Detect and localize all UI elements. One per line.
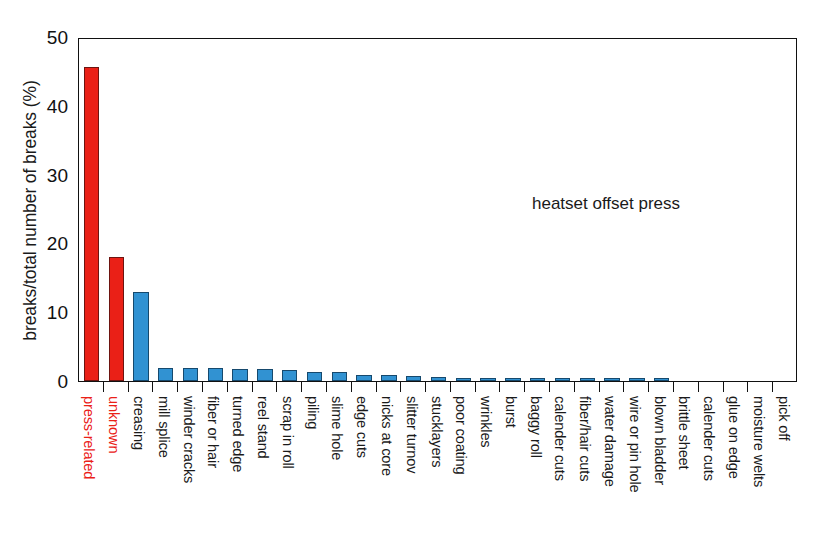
x-tick-mark xyxy=(103,382,104,392)
x-tick-label: moisture welts xyxy=(751,396,766,487)
bar xyxy=(505,378,520,381)
x-tick-mark xyxy=(623,382,624,392)
x-tick-mark xyxy=(450,382,451,392)
x-tick-mark xyxy=(524,382,525,392)
x-tick-mark xyxy=(673,382,674,392)
x-tick-label: fiber or hair xyxy=(206,396,221,468)
x-tick-label: press-related xyxy=(82,396,97,479)
x-tick-mark xyxy=(475,382,476,392)
x-tick-label: reel stand xyxy=(255,396,270,459)
x-tick-mark xyxy=(351,382,352,392)
bar xyxy=(84,67,99,381)
y-tick-label: 40 xyxy=(22,97,68,116)
x-tick-mark xyxy=(747,382,748,392)
bar xyxy=(332,372,347,381)
bar-chart-figure: breaks/total number of breaks (%) 010203… xyxy=(0,0,819,560)
bar xyxy=(530,378,545,381)
bar xyxy=(183,368,198,381)
bar xyxy=(381,375,396,381)
y-tick-label: 50 xyxy=(22,28,68,47)
x-tick-label: turned edge xyxy=(231,396,246,472)
x-tick-mark xyxy=(499,382,500,392)
x-tick-label: fiber/hair cuts xyxy=(578,396,593,481)
bar xyxy=(406,376,421,382)
x-tick-label: scrap in roll xyxy=(280,396,295,469)
x-tick-label: wire or pin hole xyxy=(627,396,642,493)
x-tick-mark xyxy=(152,382,153,392)
bar xyxy=(208,368,223,381)
x-tick-label: creasing xyxy=(131,396,146,450)
x-tick-label: water damage xyxy=(602,396,617,487)
x-tick-mark xyxy=(425,382,426,392)
x-tick-label: calender cuts xyxy=(702,396,717,481)
x-tick-label: mill splice xyxy=(156,396,171,458)
bar xyxy=(109,257,124,381)
x-tick-mark xyxy=(326,382,327,392)
x-tick-label: poor coating xyxy=(454,396,469,475)
x-tick-mark xyxy=(723,382,724,392)
x-tick-mark xyxy=(698,382,699,392)
x-tick-mark xyxy=(301,382,302,392)
x-tick-mark xyxy=(202,382,203,392)
x-tick-label: brittle sheet xyxy=(677,396,692,470)
x-tick-label: calender cuts xyxy=(553,396,568,481)
bar xyxy=(629,378,644,381)
y-tick-label: 0 xyxy=(22,372,68,391)
chart-annotation: heatset offset press xyxy=(532,194,680,214)
x-tick-mark xyxy=(227,382,228,392)
bar xyxy=(307,372,322,381)
x-tick-label: pick off xyxy=(776,396,791,441)
x-tick-mark xyxy=(276,382,277,392)
x-tick-label: winder cracks xyxy=(181,396,196,483)
x-tick-mark xyxy=(252,382,253,392)
bar xyxy=(282,370,297,381)
x-tick-label: stucklayers xyxy=(429,396,444,467)
bar xyxy=(158,368,173,381)
y-tick-label: 20 xyxy=(22,234,68,253)
x-tick-mark xyxy=(574,382,575,392)
x-tick-label: wrinkles xyxy=(478,396,493,448)
x-tick-label: burst xyxy=(503,396,518,428)
x-tick-mark xyxy=(772,382,773,392)
x-tick-mark xyxy=(648,382,649,392)
x-tick-label: blown bladder xyxy=(652,396,667,485)
bar xyxy=(133,292,148,381)
plot-area: heatset offset press xyxy=(78,38,797,382)
x-tick-mark xyxy=(376,382,377,392)
bar xyxy=(232,369,247,381)
y-tick-label: 30 xyxy=(22,166,68,185)
y-tick-label: 10 xyxy=(22,303,68,322)
bar xyxy=(356,375,371,381)
bar xyxy=(456,378,471,381)
x-tick-label: edge cuts xyxy=(355,396,370,458)
x-tick-label: nicks at core xyxy=(379,396,394,476)
bar xyxy=(480,378,495,381)
x-tick-label: slime hole xyxy=(330,396,345,460)
x-tick-mark xyxy=(549,382,550,392)
x-tick-label: baggy roll xyxy=(528,396,543,458)
x-tick-label: slitter turnov xyxy=(404,396,419,473)
bar xyxy=(431,377,446,381)
x-tick-mark xyxy=(599,382,600,392)
bar xyxy=(555,378,570,381)
x-tick-label: glue on edge xyxy=(726,396,741,479)
x-tick-mark xyxy=(128,382,129,392)
x-tick-label: piling xyxy=(305,396,320,429)
x-tick-mark xyxy=(400,382,401,392)
x-tick-label: unknown xyxy=(107,396,122,453)
bar xyxy=(604,378,619,381)
bar xyxy=(257,369,272,381)
bar xyxy=(580,378,595,381)
x-tick-mark xyxy=(177,382,178,392)
y-axis-title: breaks/total number of breaks (%) xyxy=(20,31,41,391)
bar xyxy=(654,378,669,381)
